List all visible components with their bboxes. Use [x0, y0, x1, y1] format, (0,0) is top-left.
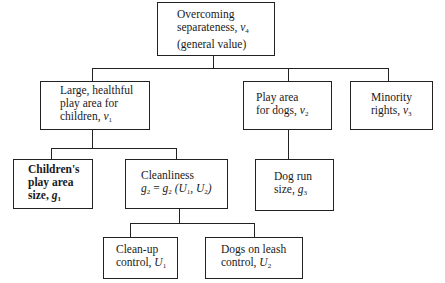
v4-line-3: (general value) [177, 38, 274, 51]
g3-line-2: size, g3 [274, 183, 333, 200]
v1-line-2: play area for [60, 97, 149, 110]
connector-g2-stem [179, 208, 180, 223]
connector-to-v2 [288, 68, 289, 81]
v4-line-1: Overcoming [177, 8, 274, 21]
v3-line-1: Minority [371, 91, 432, 104]
g1-line-3: size, g1 [28, 189, 92, 206]
node-v4-general-value: Overcoming separateness, v4 (general val… [157, 2, 275, 56]
connector-v1-bar [51, 148, 177, 149]
v1-line-1: Large, healthful [60, 84, 149, 97]
connector-v4-stem [213, 55, 214, 68]
node-g1-childrens-play-area-size: Children's play area size, g1 [13, 159, 93, 209]
U2-line-1: Dogs on leash [221, 243, 302, 256]
node-v3-minority-rights: Minority rights, v3 [350, 81, 433, 130]
U1-line-1: Clean-up [116, 243, 177, 256]
node-v1-play-area-children: Large, healthful play area for children,… [40, 81, 150, 130]
g3-line-1: Dog run [274, 170, 333, 183]
node-U1-clean-up-control: Clean-up control, U1 [103, 237, 178, 279]
connector-v1-stem [92, 129, 93, 148]
connector-to-v3 [388, 68, 389, 81]
g2-line-1: Cleanliness [141, 169, 227, 182]
g1-line-2: play area [28, 176, 92, 189]
connector-level1-bar [92, 68, 389, 69]
node-g2-cleanliness: Cleanliness g2 = g2 (U1, U2) [125, 159, 228, 209]
node-U2-dogs-on-leash-control: Dogs on leash control, U2 [205, 237, 303, 279]
v2-line-2: for dogs, v2 [256, 104, 331, 121]
v3-line-2: rights, v3 [371, 104, 432, 121]
connector-to-U2 [254, 223, 255, 237]
connector-g2-bar [130, 223, 255, 224]
connector-to-v1 [92, 68, 93, 81]
g2-line-2: g2 = g2 (U1, U2) [141, 182, 227, 199]
connector-to-g1 [51, 148, 52, 159]
connector-to-g2 [176, 148, 177, 159]
v1-line-3: children, v1 [60, 110, 149, 127]
U2-line-2: control, U2 [221, 256, 302, 273]
v2-line-1: Play area [256, 91, 331, 104]
connector-v2-to-g3 [288, 129, 289, 159]
node-g3-dog-run-size: Dog run size, g3 [255, 159, 334, 211]
v4-line-2: separateness, v4 [177, 21, 274, 38]
node-v2-play-area-dogs: Play area for dogs, v2 [243, 81, 332, 130]
g1-line-1: Children's [28, 163, 92, 176]
U1-line-2: control, U1 [116, 256, 177, 273]
connector-to-U1 [130, 223, 131, 237]
